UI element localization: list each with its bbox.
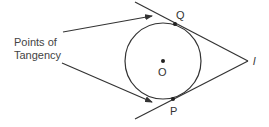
- diagram-svg: Q P O l: [0, 0, 269, 127]
- label-l: l: [253, 55, 256, 67]
- center-o-dot: [161, 59, 165, 63]
- point-q-dot: [173, 22, 177, 26]
- arrow-to-p: [62, 63, 152, 102]
- caption-line-1: Points of: [14, 36, 61, 49]
- points-of-tangency-caption: Points of Tangency: [14, 36, 61, 62]
- point-p-dot: [171, 97, 175, 101]
- label-o: O: [158, 66, 167, 78]
- lower-tangent-line: [135, 61, 248, 119]
- arrow-to-q: [63, 16, 152, 32]
- label-q: Q: [176, 9, 185, 21]
- caption-line-2: Tangency: [14, 49, 61, 62]
- label-p: P: [170, 105, 177, 117]
- tangent-diagram: Q P O l Points of Tangency: [0, 0, 269, 127]
- upper-tangent-line: [135, 2, 248, 61]
